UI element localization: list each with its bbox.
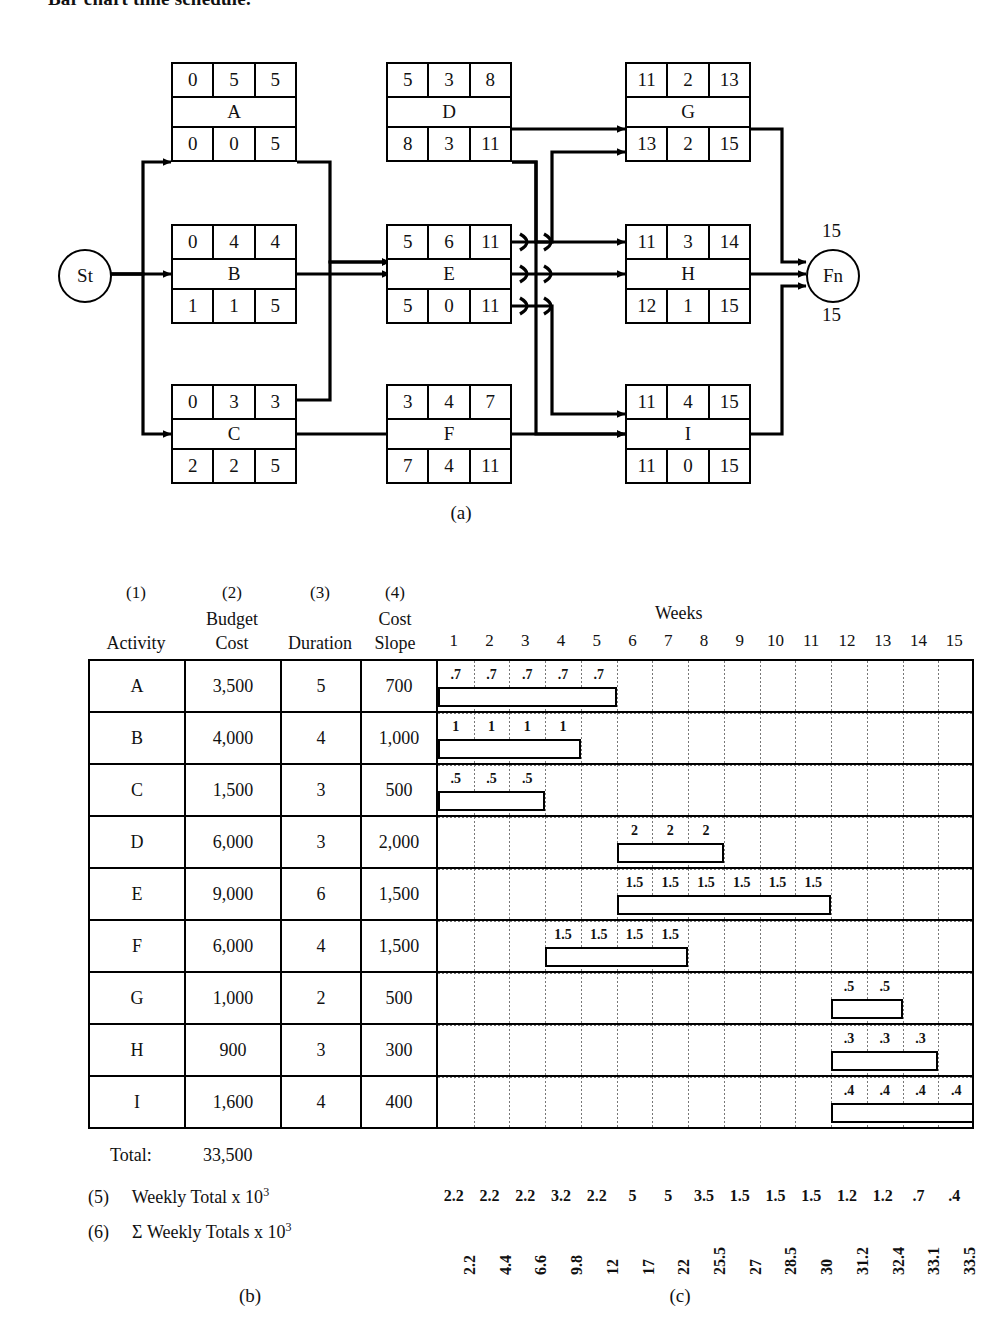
total-value: 33,500 bbox=[203, 1145, 253, 1166]
cumulative-total-week-10: 28.5 bbox=[782, 1247, 800, 1275]
node-C-late-start: 2 bbox=[173, 450, 212, 482]
grid-vline bbox=[795, 713, 796, 763]
grid-vline bbox=[760, 817, 761, 867]
grid-vline bbox=[617, 973, 618, 1023]
week-label-9: 9 bbox=[722, 631, 758, 651]
gantt-cell-H: .3.3.3 bbox=[437, 1024, 973, 1076]
grid-vline bbox=[867, 817, 868, 867]
node-I-early-finish: 15 bbox=[708, 386, 749, 418]
node-F-duration-top: 4 bbox=[427, 386, 468, 418]
node-A-late-finish: 5 bbox=[254, 128, 295, 160]
node-I-duration-top: 4 bbox=[666, 386, 707, 418]
node-G-name: G bbox=[627, 98, 749, 126]
cell-budget-cost-G: 1,000 bbox=[185, 972, 281, 1024]
cell-duration-B: 4 bbox=[281, 712, 361, 764]
node-G-early-finish: 13 bbox=[708, 64, 749, 96]
node-D-early-finish: 8 bbox=[469, 64, 510, 96]
network-finish-label: Fn bbox=[823, 265, 843, 287]
table-row: F6,00041,5001.51.51.51.5 bbox=[89, 920, 973, 972]
column-number-3: (3) bbox=[285, 583, 355, 603]
node-A-late-start: 0 bbox=[173, 128, 212, 160]
cell-duration-I: 4 bbox=[281, 1076, 361, 1128]
week-label-1: 1 bbox=[436, 631, 472, 651]
week-label-3: 3 bbox=[507, 631, 543, 651]
gantt-cell-F: 1.51.51.51.5 bbox=[437, 920, 973, 972]
cumulative-total-week-11: 30 bbox=[818, 1259, 836, 1275]
table-row: C1,5003500.5.5.5 bbox=[89, 764, 973, 816]
network-node-F: 3 4 7 F 7 4 11 bbox=[386, 384, 512, 484]
node-H-early-start: 11 bbox=[627, 226, 666, 258]
grid-vline bbox=[581, 1077, 582, 1127]
bar-weekly-cost-label: 1.5 bbox=[724, 875, 760, 891]
grid-vline bbox=[688, 973, 689, 1023]
bar-weekly-cost-label: 1.5 bbox=[581, 927, 617, 943]
cell-activity-D: D bbox=[89, 816, 185, 868]
summary-6-number: (6) bbox=[88, 1222, 109, 1242]
grid-vline bbox=[795, 661, 796, 711]
bar-weekly-cost-label: .4 bbox=[938, 1083, 974, 1099]
bar-weekly-cost-label: 1.5 bbox=[760, 875, 796, 891]
grid-hline bbox=[438, 869, 972, 870]
cell-budget-cost-B: 4,000 bbox=[185, 712, 281, 764]
gantt-cell-A: .7.7.7.7.7 bbox=[437, 660, 973, 712]
grid-vline bbox=[795, 973, 796, 1023]
cell-cost-slope-D: 2,000 bbox=[361, 816, 437, 868]
bar-weekly-cost-label: .4 bbox=[831, 1083, 867, 1099]
week-label-14: 14 bbox=[900, 631, 936, 651]
grid-vline bbox=[831, 661, 832, 711]
network-node-E: 5 6 11 E 5 0 11 bbox=[386, 224, 512, 324]
weekly-total-week-6: 5 bbox=[613, 1187, 653, 1205]
node-H-duration-top: 3 bbox=[666, 226, 707, 258]
grid-vline bbox=[760, 765, 761, 815]
grid-vline bbox=[545, 1025, 546, 1075]
figure-caption-b: (b) bbox=[220, 1285, 280, 1307]
grid-vline bbox=[831, 765, 832, 815]
bar-weekly-cost-label: 1 bbox=[438, 719, 474, 735]
grid-vline bbox=[474, 869, 475, 919]
gantt-bar-F bbox=[545, 947, 688, 967]
grid-vline bbox=[474, 973, 475, 1023]
bar-weekly-cost-label: 2 bbox=[617, 823, 653, 839]
grid-vline bbox=[831, 713, 832, 763]
network-start-label: St bbox=[77, 265, 93, 287]
grid-vline bbox=[652, 1077, 653, 1127]
node-B-early-start: 0 bbox=[173, 226, 212, 258]
bar-weekly-cost-label: .5 bbox=[831, 979, 867, 995]
node-C-early-finish: 3 bbox=[254, 386, 295, 418]
header-cost-slope-line1: Cost bbox=[360, 609, 430, 630]
gantt-bar-D bbox=[617, 843, 724, 863]
node-E-name: E bbox=[388, 260, 510, 288]
bar-weekly-cost-label: 2 bbox=[652, 823, 688, 839]
node-E-duration-top: 6 bbox=[427, 226, 468, 258]
bar-weekly-cost-label: 1 bbox=[509, 719, 545, 735]
node-C-name: C bbox=[173, 420, 295, 448]
schedule-section: (1) (2) (3) (4) Activity Budget Cost Dur… bbox=[0, 575, 1002, 1335]
grid-vline bbox=[688, 765, 689, 815]
node-E-early-finish: 11 bbox=[469, 226, 510, 258]
node-A-early-finish: 5 bbox=[254, 64, 295, 96]
bar-weekly-cost-label: .7 bbox=[474, 667, 510, 683]
weekly-total-week-5: 2.2 bbox=[577, 1187, 617, 1205]
summary-row-6: (6) Σ Weekly Totals x 103 bbox=[88, 1220, 291, 1243]
grid-vline bbox=[795, 1077, 796, 1127]
network-diagram: St Fn 15 15 0 5 5 A 0 0 5 0 4 4 B 1 1 5 bbox=[0, 34, 1002, 534]
grid-vline bbox=[509, 869, 510, 919]
table-row: E9,00061,5001.51.51.51.51.51.5 bbox=[89, 868, 973, 920]
summary-6-exponent: 3 bbox=[285, 1220, 291, 1234]
node-E-late-finish: 11 bbox=[469, 290, 510, 322]
weekly-total-week-15: .4 bbox=[934, 1187, 974, 1205]
bar-weekly-cost-label: 1.5 bbox=[652, 875, 688, 891]
node-I-early-start: 11 bbox=[627, 386, 666, 418]
node-A-float: 0 bbox=[212, 128, 253, 160]
grid-vline bbox=[509, 1025, 510, 1075]
node-B-duration-top: 4 bbox=[212, 226, 253, 258]
grid-vline bbox=[581, 817, 582, 867]
grid-vline bbox=[903, 817, 904, 867]
node-F-late-start: 7 bbox=[388, 450, 427, 482]
node-H-late-finish: 15 bbox=[708, 290, 749, 322]
cell-activity-H: H bbox=[89, 1024, 185, 1076]
grid-hline bbox=[438, 765, 972, 766]
grid-vline bbox=[509, 1077, 510, 1127]
grid-vline bbox=[760, 713, 761, 763]
grid-vline bbox=[724, 921, 725, 971]
